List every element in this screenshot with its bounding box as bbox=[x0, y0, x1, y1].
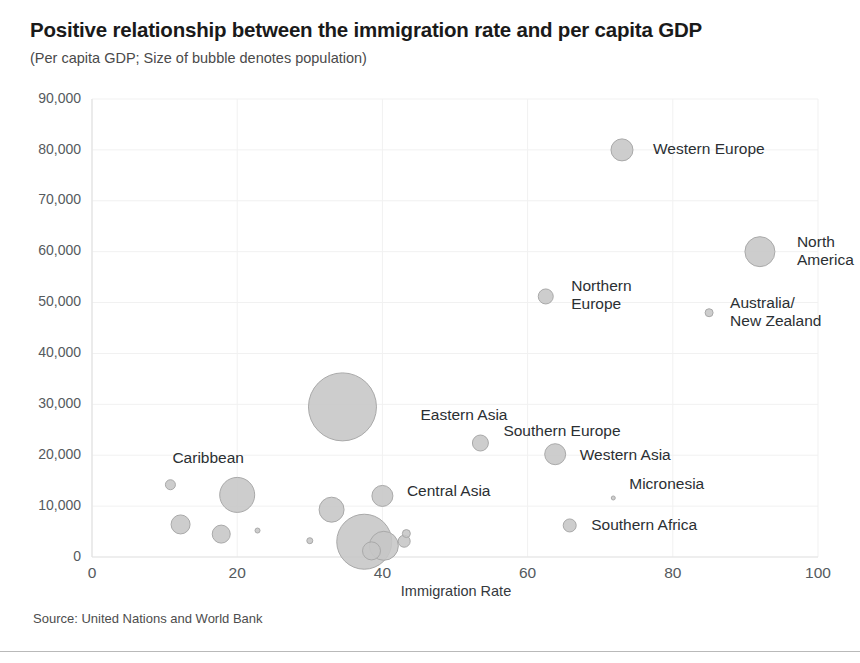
bubble-unlabeled[interactable] bbox=[171, 515, 190, 534]
y-axis-tick-label: 0 bbox=[73, 548, 81, 564]
bubble-caribbean[interactable] bbox=[165, 480, 175, 490]
bubble-southern-africa[interactable] bbox=[563, 519, 576, 532]
y-axis-ticks: 010,00020,00030,00040,00050,00060,00070,… bbox=[38, 90, 81, 564]
bubble-unlabeled[interactable] bbox=[212, 525, 230, 543]
chart-card: Positive relationship between the immigr… bbox=[0, 0, 860, 663]
x-axis-ticks: 020406080100 bbox=[88, 564, 832, 581]
bubble-unlabeled[interactable] bbox=[255, 528, 260, 533]
x-axis-tick-label: 80 bbox=[664, 564, 682, 581]
bubble-unlabeled[interactable] bbox=[319, 497, 344, 522]
bubble-northern-europe[interactable] bbox=[538, 289, 553, 304]
bubble-southern-europe[interactable] bbox=[472, 435, 488, 451]
x-axis-tick-label: 20 bbox=[229, 564, 247, 581]
bubble-north-america[interactable] bbox=[745, 237, 775, 267]
bubble-unlabeled[interactable] bbox=[307, 538, 313, 544]
bubble-australia-new-zealand[interactable] bbox=[705, 309, 713, 317]
footer-divider bbox=[0, 651, 860, 652]
bubble-label-western-europe: Western Europe bbox=[653, 140, 765, 157]
source-note: Source: United Nations and World Bank bbox=[33, 611, 263, 626]
x-axis-tick-label: 100 bbox=[805, 564, 831, 581]
bubble-series bbox=[165, 139, 775, 569]
bubble-unlabeled[interactable] bbox=[363, 542, 381, 560]
bubble-unlabeled[interactable] bbox=[220, 477, 255, 512]
bubble-western-europe[interactable] bbox=[611, 139, 633, 161]
y-axis-tick-label: 20,000 bbox=[38, 446, 81, 462]
x-axis-title: Immigration Rate bbox=[401, 583, 511, 599]
y-axis-tick-label: 30,000 bbox=[38, 395, 81, 411]
x-axis-tick-label: 0 bbox=[88, 564, 97, 581]
bubble-label-eastern-asia: Eastern Asia bbox=[420, 406, 507, 423]
x-axis-tick-label: 60 bbox=[519, 564, 537, 581]
bubble-label-north-america: NorthAmerica bbox=[797, 233, 854, 268]
y-axis-tick-label: 80,000 bbox=[38, 141, 81, 157]
y-axis-tick-label: 90,000 bbox=[38, 90, 81, 106]
y-axis-tick-label: 40,000 bbox=[38, 344, 81, 360]
bubble-label-southern-africa: Southern Africa bbox=[591, 517, 697, 534]
y-axis-tick-label: 10,000 bbox=[38, 497, 81, 513]
bubble-unlabeled[interactable] bbox=[402, 530, 410, 538]
bubble-label-northern-europe: NorthernEurope bbox=[571, 278, 631, 313]
bubble-western-asia[interactable] bbox=[545, 444, 566, 465]
bubble-eastern-asia[interactable] bbox=[308, 373, 376, 441]
bubble-label-caribbean: Caribbean bbox=[172, 449, 244, 466]
bubble-central-asia[interactable] bbox=[372, 485, 393, 506]
y-axis-tick-label: 50,000 bbox=[38, 293, 81, 309]
bubble-label-australia-new-zealand: Australia/New Zealand bbox=[730, 294, 821, 329]
y-axis-tick-label: 60,000 bbox=[38, 242, 81, 258]
bubble-chart-svg: 010,00020,00030,00040,00050,00060,00070,… bbox=[0, 0, 860, 663]
bubble-micronesia[interactable] bbox=[611, 496, 615, 500]
bubble-label-western-asia: Western Asia bbox=[580, 446, 671, 463]
bubble-label-southern-europe: Southern Europe bbox=[503, 422, 620, 439]
y-axis-tick-label: 70,000 bbox=[38, 191, 81, 207]
bubble-labels: Western EuropeNorthAmericaAustralia/New … bbox=[172, 140, 854, 534]
bubble-label-micronesia: Micronesia bbox=[629, 475, 704, 492]
bubble-label-central-asia: Central Asia bbox=[407, 482, 491, 499]
plot-area: 010,00020,00030,00040,00050,00060,00070,… bbox=[0, 0, 860, 663]
